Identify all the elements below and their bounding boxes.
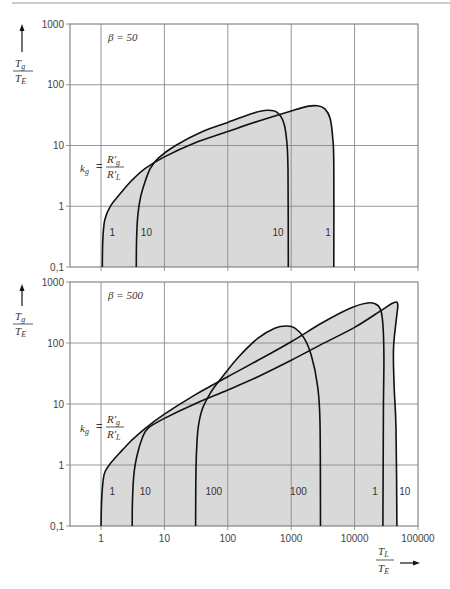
kg-numerator: R'g <box>106 413 120 427</box>
y-label-numerator: Tg <box>15 57 25 71</box>
kg-symbol: kg <box>80 162 89 176</box>
curve-label: 1 <box>325 227 331 238</box>
curve-label: 100 <box>205 486 222 497</box>
y-tick-label: 0,1 <box>50 521 64 532</box>
kg-annotation-top: kg = R'g R'L <box>80 153 124 182</box>
curve-label: 100 <box>290 486 307 497</box>
y-tick-label: 1000 <box>42 277 65 288</box>
x-tick-label: 100 <box>219 533 236 544</box>
curve-label: 10 <box>272 227 284 238</box>
kg-equals: = <box>96 160 102 172</box>
y-tick-label: 0,1 <box>50 262 64 273</box>
x-tick-label: 1 <box>98 533 104 544</box>
y-tick-label: 1 <box>58 201 64 212</box>
curve-label: 10 <box>141 227 153 238</box>
y-label-denominator: TE <box>15 325 26 339</box>
kg-denominator: R'L <box>106 168 121 182</box>
chart-beta-500: 10001001010,1 110100100010000100000 1110… <box>42 277 435 545</box>
curve-label: 1 <box>372 486 378 497</box>
y-axis-label-bottom: Tg TE <box>13 284 33 339</box>
chart-title: β = 50 <box>107 31 138 43</box>
curve-label: 10 <box>140 486 152 497</box>
y-tick-labels: 10001001010,1 <box>42 277 65 532</box>
y-tick-labels: 10001001010,1 <box>42 19 65 273</box>
kg-denominator: R'L <box>106 428 121 442</box>
figure: 10001001010,1 111010 β = 50 10001001010,… <box>0 0 450 589</box>
curve-label: 10 <box>399 486 411 497</box>
x-tick-labels: 110100100010000100000 <box>98 533 435 544</box>
curve-label: 1 <box>109 486 115 497</box>
arrow-up-head-icon <box>20 284 25 291</box>
kg-numerator: R'g <box>106 153 120 167</box>
chart-beta-50: 10001001010,1 111010 β = 50 <box>42 19 418 273</box>
arrow-up-head-icon <box>20 24 25 31</box>
y-tick-label: 1000 <box>42 19 65 30</box>
chart-title: β = 500 <box>107 289 143 301</box>
y-tick-label: 1 <box>58 460 64 471</box>
kg-annotation-bottom: kg = R'g R'L <box>80 413 124 442</box>
x-tick-label: 10000 <box>341 533 369 544</box>
x-tick-label: 1000 <box>280 533 303 544</box>
y-tick-label: 100 <box>47 338 64 349</box>
kg-symbol: kg <box>80 422 89 436</box>
curve-label: 1 <box>109 227 115 238</box>
x-tick-label: 10 <box>159 533 171 544</box>
area-k-g-10 <box>136 110 288 267</box>
y-axis-label-top: Tg TE <box>13 24 33 86</box>
y-tick-label: 100 <box>47 79 64 90</box>
x-axis-label: TL TE <box>376 545 420 576</box>
y-label-numerator: Tg <box>15 310 25 324</box>
y-label-denominator: TE <box>15 72 26 86</box>
arrow-right-head-icon <box>413 561 420 566</box>
kg-equals: = <box>96 420 102 432</box>
x-label-denominator: TE <box>378 562 389 576</box>
y-tick-label: 10 <box>53 399 65 410</box>
y-tick-label: 10 <box>53 140 65 151</box>
x-label-numerator: TL <box>378 545 389 559</box>
x-tick-label: 100000 <box>401 533 435 544</box>
